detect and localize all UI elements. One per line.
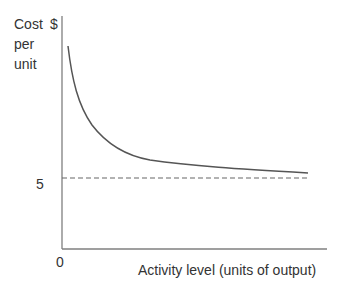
chart-plot (0, 0, 344, 293)
cost-curve (68, 46, 308, 173)
